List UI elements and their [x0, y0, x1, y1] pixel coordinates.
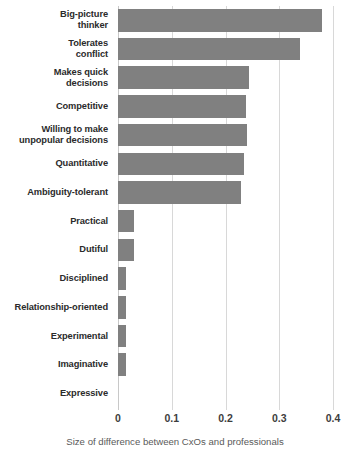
bar-track [113, 92, 350, 121]
bar-ambiguity-tolerant [118, 181, 241, 204]
bar-quantitative [118, 153, 244, 176]
bar-row: Disciplined [0, 264, 350, 293]
x-tick-label-0.3: 0.3 [272, 412, 287, 424]
bar-row: Willing to make unpopular decisions [0, 121, 350, 150]
bar-track [113, 35, 350, 64]
bar-track [113, 236, 350, 265]
bar-row: Competitive [0, 92, 350, 121]
bar-track [113, 293, 350, 322]
bar-track [113, 322, 350, 351]
bar-row: Ambiguity-tolerant [0, 178, 350, 207]
bar-rows: Big-picture thinkerTolerates conflictMak… [0, 0, 350, 412]
category-label-disciplined: Disciplined [0, 273, 113, 284]
bar-tolerates-conflict [118, 38, 300, 61]
category-label-relationship-oriented: Relationship-oriented [0, 302, 113, 313]
category-label-willing-to-make-unpopular-decisions: Willing to make unpopular decisions [0, 124, 113, 146]
bar-row: Big-picture thinker [0, 6, 350, 35]
bar-disciplined [118, 267, 126, 290]
bar-track [113, 63, 350, 92]
category-label-big-picture-thinker: Big-picture thinker [0, 9, 113, 31]
bar-track [113, 121, 350, 150]
bar-row: Relationship-oriented [0, 293, 350, 322]
x-axis: 00.10.20.30.4 [0, 410, 350, 432]
bar-row: Quantitative [0, 150, 350, 179]
bar-track [113, 350, 350, 379]
category-label-dutiful: Dutiful [0, 244, 113, 255]
bar-big-picture-thinker [118, 9, 322, 32]
bar-row: Practical [0, 207, 350, 236]
bar-track [113, 264, 350, 293]
bar-track [113, 178, 350, 207]
bar-practical [118, 210, 134, 233]
bar-competitive [118, 95, 246, 118]
bar-willing-to-make-unpopular-decisions [118, 124, 247, 147]
bar-row: Makes quick decisions [0, 63, 350, 92]
bar-relationship-oriented [118, 296, 126, 319]
category-label-practical: Practical [0, 216, 113, 227]
category-label-experimental: Experimental [0, 331, 113, 342]
bar-experimental [118, 325, 126, 348]
bar-makes-quick-decisions [118, 66, 249, 89]
bar-row: Experimental [0, 322, 350, 351]
bar-dutiful [118, 239, 134, 262]
category-label-ambiguity-tolerant: Ambiguity-tolerant [0, 187, 113, 198]
bar-row: Dutiful [0, 236, 350, 265]
plot-area: Big-picture thinkerTolerates conflictMak… [0, 0, 350, 412]
category-label-competitive: Competitive [0, 101, 113, 112]
bar-row: Expressive [0, 379, 350, 408]
category-label-tolerates-conflict: Tolerates conflict [0, 38, 113, 60]
bar-chart: Big-picture thinkerTolerates conflictMak… [0, 0, 350, 462]
bar-track [113, 150, 350, 179]
bar-row: Tolerates conflict [0, 35, 350, 64]
category-label-makes-quick-decisions: Makes quick decisions [0, 67, 113, 89]
x-tick-label-0.1: 0.1 [164, 412, 179, 424]
x-tick-label-0: 0 [115, 412, 121, 424]
x-tick-label-0.2: 0.2 [218, 412, 233, 424]
x-axis-caption: Size of difference between CxOs and prof… [0, 436, 350, 447]
bar-imaginative [118, 353, 126, 376]
bar-track [113, 207, 350, 236]
category-label-quantitative: Quantitative [0, 158, 113, 169]
bar-track [113, 6, 350, 35]
bar-track [113, 379, 350, 408]
category-label-imaginative: Imaginative [0, 359, 113, 370]
category-label-expressive: Expressive [0, 388, 113, 399]
bar-row: Imaginative [0, 350, 350, 379]
x-tick-label-0.4: 0.4 [326, 412, 341, 424]
